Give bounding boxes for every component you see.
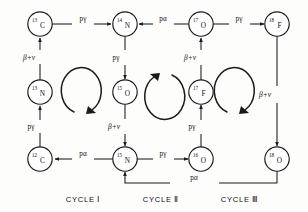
node-o15[interactable]: 15 O	[113, 80, 137, 104]
cycle-arrow-3-arc	[214, 68, 254, 112]
edge-label-n13-to-c13: β+ν	[22, 53, 36, 62]
edge-o18-to-n15-right	[219, 171, 277, 183]
node-n14-symbol: N	[125, 21, 131, 30]
cycle-caption-group: CYCLE Ⅰ CYCLE Ⅱ CYCLE Ⅲ	[66, 195, 259, 204]
node-o15-symbol: O	[125, 89, 130, 98]
node-o18[interactable]: 18 O	[265, 147, 289, 171]
node-f17-mass: 17	[193, 85, 198, 91]
edge-group-return-path	[125, 171, 277, 183]
node-o16-mass: 16	[193, 152, 198, 158]
node-f18-symbol: F	[277, 21, 281, 30]
edge-label-n15-to-o16: pγ	[160, 150, 168, 158]
node-f17[interactable]: 17 F	[189, 80, 213, 104]
node-o15-mass: 15	[117, 85, 122, 91]
node-c12-symbol: C	[40, 156, 45, 165]
node-n13-symbol: N	[40, 89, 46, 98]
node-c13-mass: 13	[32, 17, 37, 23]
node-n15-mass: 15	[117, 152, 122, 158]
edge-label-o18-to-n15: pα	[190, 174, 198, 182]
edge-label-group: pγ pα pγ β+ν pγ β+ν β+ν pγ β+ν pγ pα pγ …	[22, 15, 272, 182]
edge-label-o15-to-n15: β+ν	[107, 122, 121, 131]
node-o17[interactable]: 17 O	[189, 12, 213, 36]
cno-cycle-diagram: 13 C 14 N 17 O 18 F 13 N	[0, 0, 308, 212]
node-c12-mass: 12	[32, 152, 37, 158]
edge-label-n15-to-c12: pα	[79, 150, 87, 158]
edge-group-vertical	[40, 36, 277, 147]
edge-label-o17-to-n14: pα	[159, 15, 167, 23]
node-o18-mass: 18	[269, 152, 274, 158]
node-group: 13 C 14 N 17 O 18 F 13 N	[28, 12, 289, 171]
node-f18[interactable]: 18 F	[265, 12, 289, 36]
node-c13[interactable]: 13 C	[28, 12, 52, 36]
edge-label-o16-to-f17: pγ	[189, 123, 197, 131]
cycle-arrow-1	[61, 68, 101, 114]
cycle-arrow-1-arc	[61, 68, 101, 112]
cycle-arrow-2	[145, 73, 185, 119]
caption-cycle-3: CYCLE Ⅲ	[221, 195, 259, 204]
node-o17-mass: 17	[193, 17, 198, 23]
caption-cycle-1: CYCLE Ⅰ	[66, 195, 100, 204]
cycle-arrow-3	[214, 68, 254, 114]
edge-label-c12-to-n13: pγ	[28, 123, 36, 131]
edge-label-o17-to-f18: pγ	[236, 15, 244, 23]
edge-label-f17-to-o17: β+ν	[183, 53, 197, 62]
node-n15[interactable]: 15 N	[113, 147, 137, 171]
node-n14-mass: 14	[117, 17, 122, 23]
node-o18-symbol: O	[277, 156, 282, 165]
edge-label-c13-to-n14: pγ	[80, 15, 88, 23]
node-o16[interactable]: 16 O	[189, 147, 213, 171]
node-o17-symbol: O	[201, 21, 206, 30]
cycle-arrow-2-arc	[145, 75, 185, 119]
caption-cycle-2: CYCLE Ⅱ	[143, 195, 179, 204]
edge-o18-to-n15-left	[125, 172, 170, 183]
node-o16-symbol: O	[201, 156, 206, 165]
node-n13-mass: 13	[32, 85, 37, 91]
node-f18-mass: 18	[269, 17, 274, 23]
node-c13-symbol: C	[40, 21, 45, 30]
node-c12[interactable]: 12 C	[28, 147, 52, 171]
node-n13[interactable]: 13 N	[28, 80, 52, 104]
node-n15-symbol: N	[125, 156, 131, 165]
node-n14[interactable]: 14 N	[113, 12, 137, 36]
node-f17-symbol: F	[201, 89, 205, 98]
diagram-canvas: 13 C 14 N 17 O 18 F 13 N	[0, 0, 308, 212]
edge-label-n14-to-o15: pγ	[113, 54, 121, 62]
edge-label-f18-to-o18: β+ν	[258, 90, 272, 99]
cycle-arrow-group	[61, 68, 254, 120]
